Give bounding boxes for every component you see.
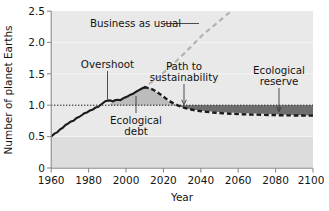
y-tick-label: 0: [38, 162, 45, 174]
y-axis-tick-labels: 2.5 2.0 1.5 1.0 0.5 0: [28, 5, 45, 174]
x-axis-title: Year: [170, 191, 194, 203]
x-tick-label: 2100: [298, 174, 325, 186]
y-tick-label: 1.5: [28, 68, 45, 80]
chart-figure: 2.5 2.0 1.5 1.0 0.5 0 1960 1980 2000 202…: [0, 0, 329, 211]
y-tick-label: 0.5: [28, 130, 45, 142]
planet-earths-line-chart: 2.5 2.0 1.5 1.0 0.5 0 1960 1980 2000 202…: [0, 0, 329, 211]
x-tick-label: 2060: [225, 174, 252, 186]
y-tick-label: 2.0: [28, 36, 45, 48]
annotation-business-as-usual: Business as usual: [90, 17, 181, 29]
x-axis-tick-labels: 1960 1980 2000 2020 2040 2060 2080 2100: [38, 174, 325, 186]
annotation-line: reserve: [260, 75, 299, 87]
annotation-line: debt: [124, 125, 147, 137]
annotation-line: sustainability: [150, 71, 219, 83]
x-tick-label: 1980: [75, 174, 102, 186]
x-tick-label: 2080: [262, 174, 289, 186]
y-tick-label: 1.0: [28, 99, 45, 111]
x-tick-label: 1960: [38, 174, 65, 186]
x-tick-label: 2000: [113, 174, 140, 186]
annotation-ecological-reserve: Ecological reserve: [253, 64, 305, 87]
x-tick-label: 2040: [187, 174, 214, 186]
y-axis-title: Number of planet Earths: [2, 25, 14, 154]
x-tick-label: 2020: [150, 174, 177, 186]
x-axis-ticks: [51, 168, 313, 172]
plot-background-lower: [51, 137, 313, 168]
y-axis-ticks: [47, 11, 51, 168]
annotation-overshoot: Overshoot: [81, 58, 134, 70]
y-tick-label: 2.5: [28, 5, 45, 17]
